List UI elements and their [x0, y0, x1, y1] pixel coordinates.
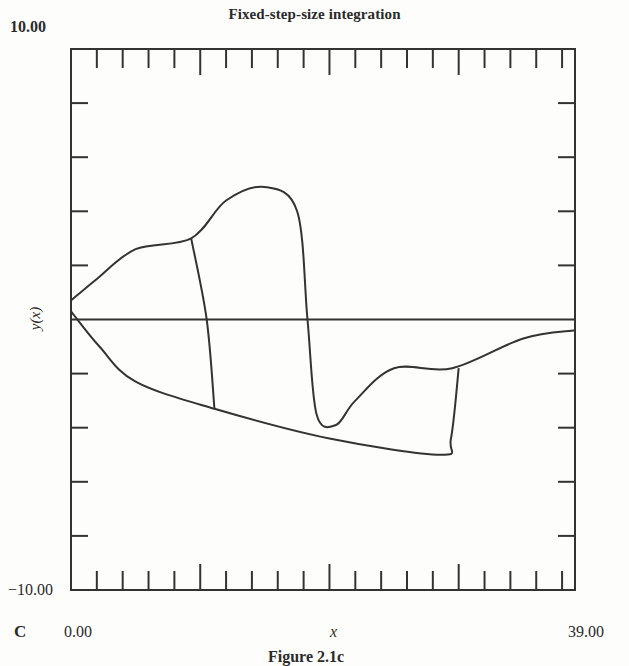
series-line [71, 187, 575, 428]
series-line [191, 238, 214, 408]
data-curves [71, 187, 575, 455]
series-line [71, 311, 459, 454]
